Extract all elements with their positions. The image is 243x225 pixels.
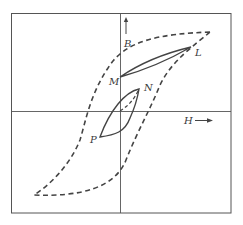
up-arrow-icon <box>124 17 128 34</box>
point-m-label: M <box>108 76 120 87</box>
h-axis-label: H <box>183 115 193 126</box>
b-axis-label: B <box>123 38 131 49</box>
major-hysteresis-loop <box>34 32 210 195</box>
hysteresis-diagram: B H L M N P <box>0 0 243 225</box>
point-n-label: N <box>143 82 154 93</box>
right-arrow-icon <box>195 118 213 122</box>
frame <box>12 14 232 214</box>
point-l-label: L <box>194 47 202 58</box>
minor-loop-np <box>100 89 139 137</box>
point-p-label: P <box>89 134 97 145</box>
minor-loop-ml <box>120 47 191 77</box>
